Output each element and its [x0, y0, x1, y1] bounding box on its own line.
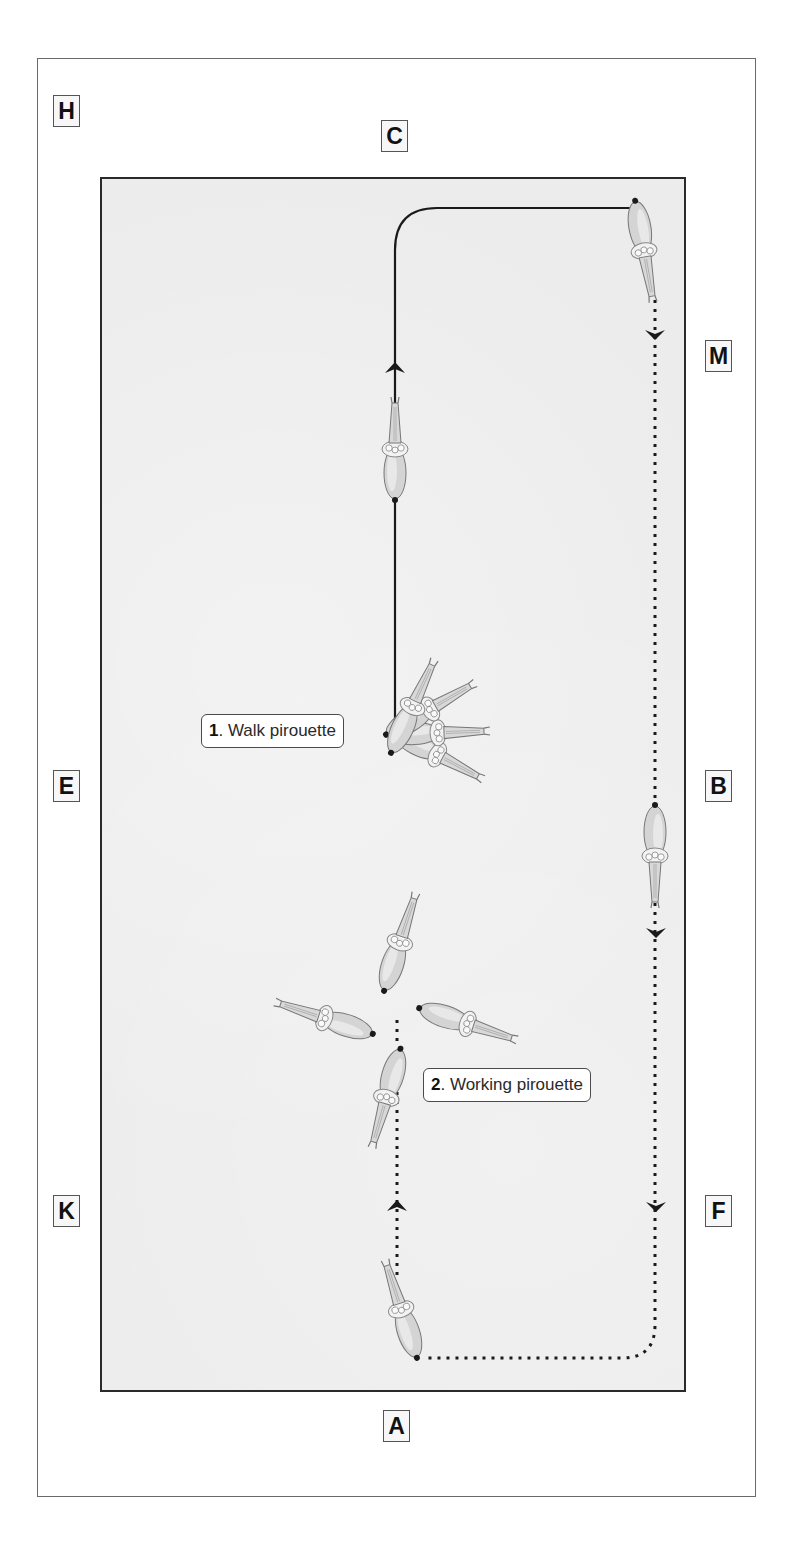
marker-E: E: [53, 770, 80, 802]
label-text: . Walk pirouette: [218, 721, 335, 741]
label-number: 2: [431, 1075, 440, 1095]
label-number: 1: [209, 721, 218, 741]
horse-icon: [382, 397, 408, 503]
arena-paths: [0, 0, 793, 1542]
horse-icon: [642, 802, 668, 908]
horse-icon: [622, 195, 666, 304]
marker-M: M: [705, 340, 732, 372]
marker-C: C: [381, 120, 408, 152]
arrow-down-icon: [645, 330, 665, 340]
working-pirouette-label: 2. Working pirouette: [423, 1068, 591, 1102]
horse-icon: [373, 1256, 430, 1365]
marker-B: B: [705, 770, 732, 802]
working-path-dotted: [425, 300, 655, 1358]
marker-F: F: [705, 1195, 732, 1227]
arrow-down-icon: [646, 928, 666, 938]
arrow-down-icon: [646, 1202, 666, 1212]
walk-path-solid: [395, 208, 632, 735]
marker-A: A: [383, 1410, 410, 1442]
label-text: . Working pirouette: [440, 1075, 582, 1095]
marker-K: K: [53, 1195, 80, 1227]
marker-H: H: [53, 95, 80, 127]
walk-pirouette-label: 1. Walk pirouette: [201, 714, 344, 748]
